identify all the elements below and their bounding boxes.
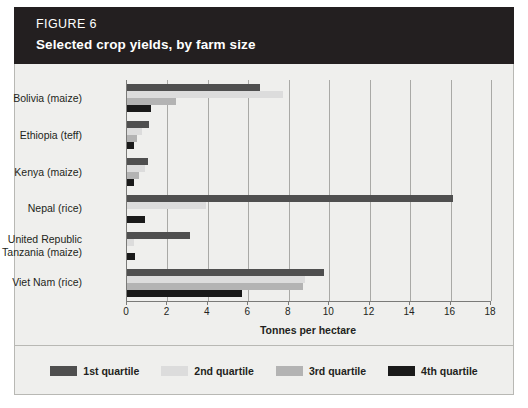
legend-swatch (50, 366, 77, 376)
figure-title: Selected crop yields, by farm size (36, 35, 514, 55)
bar (127, 202, 206, 209)
legend-item: 4th quartile (388, 365, 478, 377)
bar (127, 135, 137, 142)
x-axis-tick (450, 301, 451, 305)
bar (127, 239, 134, 246)
bar (127, 105, 151, 112)
chart-legend: 1st quartile2nd quartile3rd quartile4th … (14, 358, 514, 384)
x-axis-tick-label: 16 (435, 306, 465, 317)
bar (127, 216, 145, 223)
bar (127, 276, 305, 283)
x-axis-tick-label: 18 (475, 306, 505, 317)
category-label: United Republicof Tanzania (maize) (0, 233, 82, 259)
x-axis-tick (166, 301, 167, 305)
x-axis-tick (126, 301, 127, 305)
category-label: Nepal (rice) (0, 202, 82, 215)
x-axis-tick-label: 12 (354, 306, 384, 317)
bar (127, 232, 190, 239)
bar (127, 121, 149, 128)
legend-label: 4th quartile (421, 365, 478, 377)
bar (127, 283, 303, 290)
figure-number: FIGURE 6 (36, 16, 514, 32)
legend-swatch (276, 366, 303, 376)
bar (127, 98, 176, 105)
bar-group: Nepal (rice) (127, 195, 490, 223)
x-axis-tick (490, 301, 491, 305)
bar (127, 84, 260, 91)
category-label: Ethiopia (teff) (0, 129, 82, 142)
bar-group: Bolivia (maize) (127, 84, 490, 112)
x-axis-tick-label: 14 (394, 306, 424, 317)
x-axis-tick-label: 0 (111, 306, 141, 317)
bar (127, 142, 134, 149)
legend-label: 1st quartile (83, 365, 139, 377)
bar-group: United Republicof Tanzania (maize) (127, 232, 490, 260)
x-axis-tick-label: 8 (273, 306, 303, 317)
x-axis-tick (328, 301, 329, 305)
x-axis-tick-label: 10 (313, 306, 343, 317)
x-axis-tick (288, 301, 289, 305)
bar-group: Ethiopia (teff) (127, 121, 490, 149)
bar (127, 195, 453, 202)
bar (127, 165, 145, 172)
figure-banner: FIGURE 6 Selected crop yields, by farm s… (14, 7, 514, 64)
bar (127, 179, 134, 186)
x-axis-tick (369, 301, 370, 305)
plot-area: Bolivia (maize)Ethiopia (teff)Kenya (mai… (126, 80, 490, 301)
x-axis-baseline (126, 301, 491, 302)
gridline (491, 80, 492, 301)
x-axis-tick (409, 301, 410, 305)
x-axis-tick-label: 2 (151, 306, 181, 317)
legend-swatch (161, 366, 188, 376)
x-axis-tick-label: 4 (192, 306, 222, 317)
bar (127, 128, 142, 135)
legend-label: 2nd quartile (194, 365, 254, 377)
category-label: Viet Nam (rice) (0, 276, 82, 289)
bar (127, 158, 148, 165)
legend-swatch (388, 366, 415, 376)
bar-group: Kenya (maize) (127, 158, 490, 186)
bar (127, 91, 283, 98)
bar (127, 290, 242, 297)
bar (127, 172, 139, 179)
figure-root: FIGURE 6 Selected crop yields, by farm s… (0, 0, 528, 408)
x-axis-tick (207, 301, 208, 305)
legend-item: 3rd quartile (276, 365, 366, 377)
category-label: Kenya (maize) (0, 166, 82, 179)
bar (127, 269, 324, 276)
legend-divider (14, 345, 514, 346)
legend-label: 3rd quartile (309, 365, 366, 377)
x-axis-title: Tonnes per hectare (126, 324, 490, 336)
bar-group: Viet Nam (rice) (127, 269, 490, 297)
bar (127, 253, 135, 260)
legend-item: 2nd quartile (161, 365, 254, 377)
x-axis-tick (247, 301, 248, 305)
legend-item: 1st quartile (50, 365, 139, 377)
category-label: Bolivia (maize) (0, 92, 82, 105)
x-axis-tick-label: 6 (232, 306, 262, 317)
